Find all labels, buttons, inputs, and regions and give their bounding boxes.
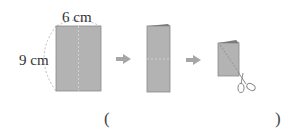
width-label: 6 cm bbox=[62, 10, 92, 25]
scissors-icon bbox=[238, 72, 256, 93]
arrow-right-icon bbox=[186, 55, 201, 65]
arrow-right-icon bbox=[116, 54, 131, 64]
height-label: 9 cm bbox=[19, 53, 49, 68]
answer-close-paren: ) bbox=[275, 110, 281, 127]
paper-sheet-unfolded bbox=[44, 20, 101, 91]
answer-blank[interactable] bbox=[112, 110, 272, 128]
paper-folded-once bbox=[147, 24, 170, 92]
paper-folded-twice bbox=[218, 40, 240, 76]
answer-open-paren: ( bbox=[104, 110, 110, 127]
